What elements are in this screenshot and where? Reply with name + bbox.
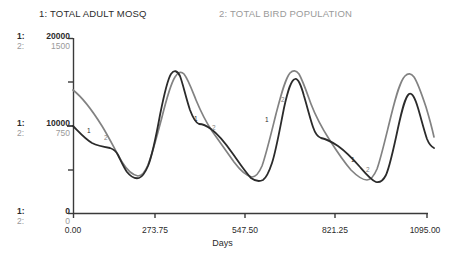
series-1-line [73, 71, 434, 182]
marker-2-d: 2 [366, 166, 370, 173]
chart-plot-area: 1 2 1 2 1 2 1 2 [0, 0, 455, 262]
series-2-line [73, 71, 434, 180]
marker-1-d: 1 [351, 156, 355, 163]
marker-1-b: 1 [194, 115, 198, 122]
marker-2-c: 2 [281, 96, 285, 103]
series-markers: 1 2 1 2 1 2 1 2 [87, 96, 370, 173]
marker-2-a: 2 [104, 134, 108, 141]
marker-1-c: 1 [265, 116, 269, 123]
chart-container: 1: TOTAL ADULT MOSQ 2: TOTAL BIRD POPULA… [0, 0, 455, 262]
marker-2-b: 2 [212, 124, 216, 131]
marker-1-a: 1 [87, 127, 91, 134]
